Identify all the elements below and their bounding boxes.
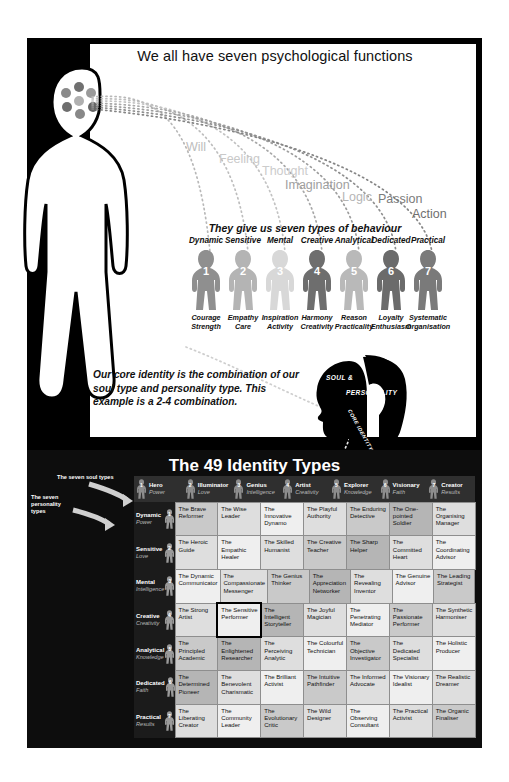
identity-cell[interactable]: The Wise Leader xyxy=(217,502,261,537)
column-number: 3 xyxy=(233,482,244,488)
identity-cell[interactable]: The Innovative Dynamo xyxy=(260,502,304,537)
column-number: 5 xyxy=(331,482,342,488)
identity-cell[interactable]: The Realistic Dreamer xyxy=(432,670,476,705)
grid-column-header-illuminator: 2IlluminatorLove xyxy=(183,476,232,502)
column-subtitle: Intelligence xyxy=(246,489,274,496)
grid-rows: DynamicPower1The Brave ReformerThe Wise … xyxy=(134,502,475,738)
behaviour-type-number: 7 xyxy=(411,265,445,277)
identity-cell[interactable]: The Dynamic Communicator xyxy=(175,569,221,604)
identity-cell[interactable]: The Principled Academic xyxy=(175,636,219,671)
identity-cell[interactable]: The Practical Activist xyxy=(389,704,433,739)
function-label-thought: Thought xyxy=(262,164,308,178)
row-subtitle: Creativity xyxy=(136,620,164,627)
identity-cell[interactable]: The Colourful Technician xyxy=(303,636,347,671)
grid-row-header-dynamic: DynamicPower1 xyxy=(134,502,175,536)
column-name: Hero xyxy=(149,482,165,489)
identity-cell[interactable]: The Enlightened Researcher xyxy=(217,636,261,671)
row-name: Dynamic xyxy=(136,512,164,519)
behaviour-subheadline: They give us seven types of behaviour xyxy=(155,222,455,234)
column-name: Creator xyxy=(441,482,462,489)
identity-cell[interactable]: The Strong Artist xyxy=(175,603,219,638)
identity-cell[interactable]: The Genuine Advisor xyxy=(392,569,434,604)
identity-cell[interactable]: The Intelligent Storyteller xyxy=(260,603,304,638)
row-subtitle: Power xyxy=(136,519,164,526)
identity-cell[interactable]: The One-pointed Soldier xyxy=(389,502,433,537)
identity-cell[interactable]: The Evolutionary Critic xyxy=(260,704,304,739)
identity-cell[interactable]: The Heroic Guide xyxy=(175,535,219,570)
identity-cell[interactable]: The Liberating Creator xyxy=(175,704,219,739)
identity-cell[interactable]: The Objective Investigator xyxy=(346,636,390,671)
personality-types-annotation: The seven personality types xyxy=(31,494,73,515)
identity-cell[interactable]: The Brilliant Activist xyxy=(260,670,304,705)
identity-cell[interactable]: The Intuitive Pathfinder xyxy=(303,670,347,705)
identity-grid: 1HeroPower2IlluminatorLove3GeniusIntelli… xyxy=(134,476,475,738)
personality-label: PERSONALITY xyxy=(346,389,397,396)
identity-cell[interactable]: The Leading Strategist xyxy=(433,569,475,604)
identity-cell[interactable]: The Appreciation Networker xyxy=(309,569,351,604)
column-name: Genius xyxy=(246,482,274,489)
identity-cell[interactable]: The Perceiving Analytic xyxy=(260,636,304,671)
column-name: Visionary xyxy=(393,482,420,489)
identity-cell[interactable]: The Creative Teacher xyxy=(303,535,347,570)
table-row: PracticalResults7The Liberating CreatorT… xyxy=(134,704,475,738)
behaviour-type-practical: Practical7SystematicOrganisation xyxy=(402,236,454,331)
grid-column-header-creator: 7CreatorResults xyxy=(426,476,475,502)
grid-row-header-creative: CreativeCreativity4 xyxy=(134,603,175,637)
infographic-poster: We all have seven psychological function… xyxy=(0,0,509,782)
identity-cell[interactable]: The Passionate Performer xyxy=(389,603,433,638)
identity-cell[interactable]: The Holistic Producer xyxy=(432,636,476,671)
identity-cell[interactable]: The Visionary Idealist xyxy=(389,670,433,705)
grid-column-header-explorer: 5ExplorerKnowledge xyxy=(329,476,378,502)
identity-cell[interactable]: The Genius Thinker xyxy=(267,569,309,604)
identity-cell[interactable]: The Coordinating Advisor xyxy=(432,535,476,570)
identity-cell[interactable]: The Playful Authority xyxy=(303,502,347,537)
column-figure-icon: 4 xyxy=(282,478,293,500)
identity-cell[interactable]: The Observing Consultant xyxy=(346,704,390,739)
function-label-logic: Logic xyxy=(342,190,372,204)
identity-cell[interactable]: The Dedicated Specialist xyxy=(389,636,433,671)
identity-cell[interactable]: The Determined Pioneer xyxy=(175,670,219,705)
identity-cell[interactable]: The Brave Reformer xyxy=(175,502,219,537)
table-row: DynamicPower1The Brave ReformerThe Wise … xyxy=(134,502,475,536)
identity-cell[interactable]: The Committed Heart xyxy=(389,535,433,570)
grid-row-header-practical: PracticalResults7 xyxy=(134,704,175,738)
column-figure-icon: 5 xyxy=(331,478,342,500)
table-row: DedicatedFaith6The Determined PioneerThe… xyxy=(134,670,475,704)
function-label-action: Action xyxy=(412,207,447,221)
function-label-will: Will xyxy=(186,140,206,154)
identity-cell[interactable]: The Compassionate Messenger xyxy=(220,569,269,604)
column-number: 4 xyxy=(282,482,293,488)
identity-cell[interactable]: The Benevolent Charismatic xyxy=(217,670,261,705)
row-name: Analytical xyxy=(136,647,164,654)
identity-cell[interactable]: The Organic Finaliser xyxy=(432,704,476,739)
row-name: Sensitive xyxy=(136,546,164,553)
row-number: 1 xyxy=(164,511,175,517)
identity-cell[interactable]: The Enduring Detective xyxy=(346,502,390,537)
human-silhouette xyxy=(22,60,162,405)
row-name: Dedicated xyxy=(136,680,165,687)
table-row: SensitiveLove2The Heroic GuideThe Empath… xyxy=(134,536,475,570)
identity-cell[interactable]: The Penetrating Mediator xyxy=(346,603,390,638)
identity-cell[interactable]: The Revealing Inventor xyxy=(350,569,392,604)
behaviour-type-figure-icon: 7 xyxy=(411,249,445,311)
column-figure-icon: 1 xyxy=(136,478,147,500)
identity-cell[interactable]: The Wild Designer xyxy=(303,704,347,739)
row-subtitle: Knowledge xyxy=(136,654,164,661)
column-name: Explorer xyxy=(344,482,372,489)
column-figure-icon: 7 xyxy=(428,478,439,500)
identity-cell[interactable]: The Empathic Healer xyxy=(217,535,261,570)
identity-cell[interactable]: The Informed Advocate xyxy=(346,670,390,705)
identity-cell[interactable]: The Sharp Helper xyxy=(346,535,390,570)
identity-cell[interactable]: The Community Leader xyxy=(217,704,261,739)
column-subtitle: Creativity xyxy=(295,489,318,496)
soul-types-annotation: The seven soul types xyxy=(57,474,127,481)
row-number: 4 xyxy=(164,612,175,618)
row-subtitle: Results xyxy=(136,721,164,728)
identity-cell[interactable]: The Organising Manager xyxy=(432,502,476,537)
identity-cell[interactable]: The Sensitive Performer xyxy=(217,603,261,638)
row-name: Mental xyxy=(136,579,164,586)
identity-cell[interactable]: The Skilled Humanist xyxy=(260,535,304,570)
identity-cell[interactable]: The Joyful Magician xyxy=(303,603,347,638)
behaviour-type-name: Practical xyxy=(402,236,454,245)
identity-cell[interactable]: The Synthetic Harmoniser xyxy=(432,603,476,638)
